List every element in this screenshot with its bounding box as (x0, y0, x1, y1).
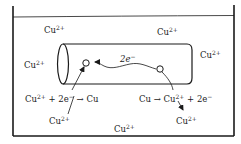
cu-ion-label-bottom-right: Cu2+ (176, 116, 197, 126)
cu-ion-label-top-right: Cu2+ (157, 27, 178, 37)
cu-ion-label-right: Cu2+ (200, 50, 221, 60)
electron-flow-label: 2e− (120, 54, 135, 64)
anode-site-circle (157, 66, 163, 72)
reduction-half-reaction: Cu2+ + 2e− → Cu (25, 94, 98, 104)
cathode-site-circle (83, 60, 89, 66)
rod-body (63, 44, 192, 84)
copper-rod (58, 44, 193, 84)
oxidation-half-reaction: Cu → Cu2+ + 2e− (139, 94, 212, 104)
cu-ion-label-left: Cu2+ (24, 60, 45, 70)
ion-to-cathode-arrow (72, 67, 84, 90)
cu-ion-label-bottom-left: Cu2+ (49, 116, 70, 126)
corrosion-diagram: Cu2+ Cu2+ Cu2+ Cu2+ Cu2+ Cu2+ Cu2+ 2e− C… (0, 0, 241, 144)
cu-ion-label-bottom-center: Cu2+ (114, 124, 135, 134)
rod-end-ellipse (58, 44, 69, 84)
diagram-graphics (0, 0, 241, 144)
cu-ion-label-top-left: Cu2+ (44, 25, 65, 35)
liquid-surface (13, 16, 234, 18)
anode-to-reaction-line (162, 72, 173, 90)
